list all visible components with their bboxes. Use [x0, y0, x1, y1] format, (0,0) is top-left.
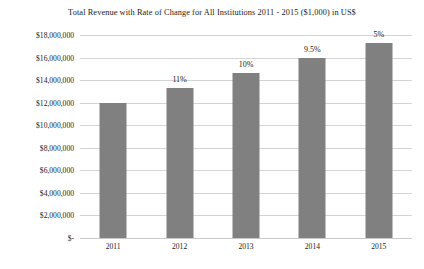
- x-axis-tick-label: 2014: [305, 242, 320, 251]
- bar[interactable]: [365, 43, 392, 238]
- y-axis-tick-label: $4,000,000: [40, 188, 74, 197]
- bar-value-label: 11%: [172, 75, 186, 84]
- y-axis-tick-label: $8,000,000: [40, 143, 74, 152]
- y-axis-tick-label: $10,000,000: [36, 121, 74, 130]
- x-axis-tick-label: 2011: [106, 242, 121, 251]
- bar-series: 11%10%9.5%5%: [80, 35, 412, 238]
- x-axis-tick-label: 2015: [371, 242, 386, 251]
- bar[interactable]: [100, 103, 127, 238]
- y-axis-tick-label: $6,000,000: [40, 166, 74, 175]
- bar-slot: 9.5%: [279, 35, 345, 238]
- x-axis-tick-label: 2012: [172, 242, 187, 251]
- gridline: [80, 238, 412, 239]
- bar[interactable]: [232, 73, 259, 238]
- revenue-bar-chart: Total Revenue with Rate of Change for Al…: [0, 0, 424, 269]
- plot-area: 11%10%9.5%5%: [80, 35, 412, 238]
- bar-slot: 11%: [146, 35, 212, 238]
- x-axis-tick-label: 2013: [238, 242, 253, 251]
- bar[interactable]: [299, 58, 326, 238]
- bar-value-label: 5%: [373, 30, 384, 39]
- y-axis-tick-label: $-: [68, 234, 74, 243]
- bar-slot: [80, 35, 146, 238]
- bar-slot: 5%: [346, 35, 412, 238]
- bar-value-label: 9.5%: [304, 45, 321, 54]
- bar[interactable]: [166, 88, 193, 238]
- y-axis-tick-label: $18,000,000: [36, 31, 74, 40]
- x-axis: 20112012201320142015: [80, 240, 412, 256]
- chart-title: Total Revenue with Rate of Change for Al…: [0, 8, 424, 17]
- y-axis: $18,000,000$16,000,000$14,000,000$12,000…: [0, 35, 74, 238]
- y-axis-tick-label: $14,000,000: [36, 76, 74, 85]
- bar-value-label: 10%: [239, 60, 254, 69]
- y-axis-tick-label: $12,000,000: [36, 98, 74, 107]
- y-axis-tick-label: $16,000,000: [36, 53, 74, 62]
- y-axis-tick-label: $2,000,000: [40, 211, 74, 220]
- bar-slot: 10%: [213, 35, 279, 238]
